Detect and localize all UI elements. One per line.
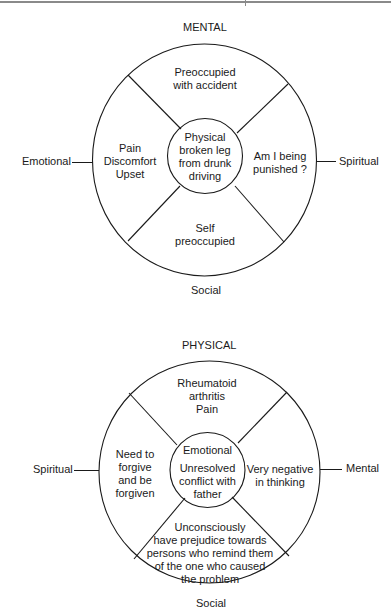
diagram2-left-connector [74,470,99,471]
diagram1-top-label: MENTAL [183,21,227,34]
diagram2-center-title: Emotional [170,444,245,457]
diagram1-sector-top: Preoccupied with accident [150,66,260,92]
diagram2-sector-left: Need to forgive and be forgiven [105,448,165,500]
diagram2-right-label: Mental [346,462,379,475]
diagram1-left-connector [72,162,93,163]
diagram1-left-label: Emotional [22,155,71,168]
diagram2-sector-bottom: Unconsciously have prejudice towards per… [140,521,280,586]
diagram1-sector-right: Am I being punished ? [240,150,320,176]
diagram1-right-label: Spiritual [339,155,379,168]
diagram1-bottom-label: Social [191,284,221,297]
diagram2-top-label: PHYSICAL [182,339,236,352]
diagram2-center-text: Unresolved conflict with father [168,462,247,501]
diagram1-center-text: Physical broken leg from drunk driving [165,131,245,183]
diagram1-sector-left: Pain Discomfort Upset [95,142,165,181]
diagram2-sector-right: Very negative in thinking [238,463,322,489]
diagram2-bottom-label: Social [196,597,226,609]
diagram1-sector-bottom: Self preoccupied [160,222,250,248]
diagram2-left-label: Spiritual [33,463,73,476]
diagram2-sector-top: Rheumatoid arthritis Pain [157,377,257,416]
diagram2-right-connector [320,469,342,470]
